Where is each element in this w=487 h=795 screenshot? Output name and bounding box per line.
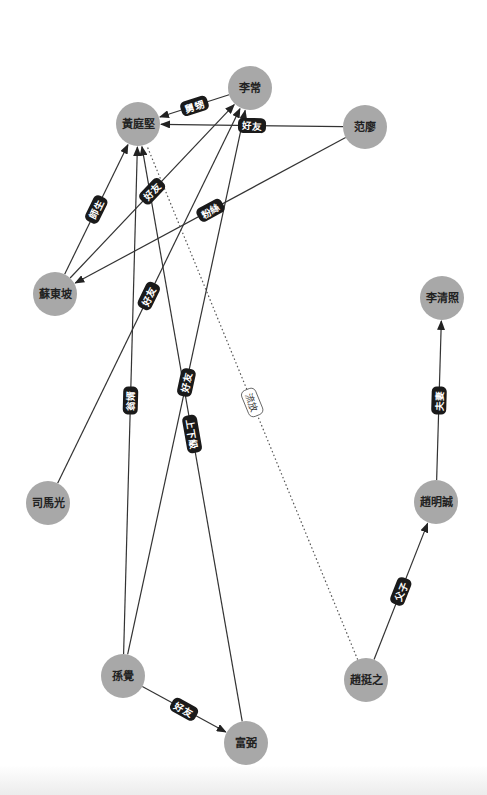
node-zhaotingzhi[interactable]: 趙挺之 [344, 658, 388, 702]
node-fanliao[interactable]: 范廖 [343, 105, 387, 149]
node-label: 李常 [238, 81, 261, 95]
node-sudongpo[interactable]: 蘇東坡 [33, 272, 77, 316]
edge-label: 好友 [176, 367, 197, 398]
edge-label: 流放 [240, 387, 265, 419]
node-label: 司馬光 [32, 496, 65, 510]
node-liqingzhao[interactable]: 李清照 [420, 276, 464, 320]
edge-label: 舅甥 [179, 94, 210, 117]
node-sunjue[interactable]: 孫覺 [101, 654, 145, 698]
node-lichang[interactable]: 李常 [228, 66, 272, 110]
node-simaguang[interactable]: 司馬光 [26, 481, 70, 525]
node-label: 富弼 [235, 736, 257, 750]
bottom-fade [0, 765, 487, 795]
edge-label: 師生 [83, 194, 109, 226]
node-huangtingjian[interactable]: 黃庭堅 [116, 102, 160, 146]
node-label: 范廖 [354, 120, 376, 134]
edge-label-text: 夫妻 [434, 390, 446, 411]
node-label: 李清照 [425, 291, 459, 305]
edge-label: 好友 [136, 280, 162, 312]
edge-label: 好友 [168, 696, 200, 723]
edge-label: 好友 [238, 118, 266, 133]
nodes-layer: 李常黃庭堅范廖蘇東坡李清照司馬光趙明誠孫覺趙挺之富弼 [26, 66, 464, 765]
node-fubi[interactable]: 富弼 [224, 721, 268, 765]
node-label: 趙挺之 [350, 673, 383, 687]
edge-label-text: 好友 [241, 120, 262, 131]
node-zhaomingcheng[interactable]: 趙明誠 [414, 480, 458, 524]
edge-label: 翁婿 [123, 386, 139, 414]
edge-label: 父子 [389, 576, 413, 608]
edge-label: 上下級 [181, 414, 202, 454]
node-label: 黃庭堅 [121, 117, 155, 131]
edge-labels-layer: 舅甥好友師生好友粉絲好友翁婿好友上下級流放夫妻父子好友 [83, 94, 446, 722]
node-label: 蘇東坡 [38, 287, 73, 301]
relationship-graph: 舅甥好友師生好友粉絲好友翁婿好友上下級流放夫妻父子好友 李常黃庭堅范廖蘇東坡李清… [0, 0, 487, 795]
edge-label-text: 翁婿 [125, 390, 137, 411]
node-label: 孫覺 [112, 669, 134, 683]
node-label: 趙明誠 [420, 495, 453, 509]
edge-label: 夫妻 [431, 386, 447, 414]
